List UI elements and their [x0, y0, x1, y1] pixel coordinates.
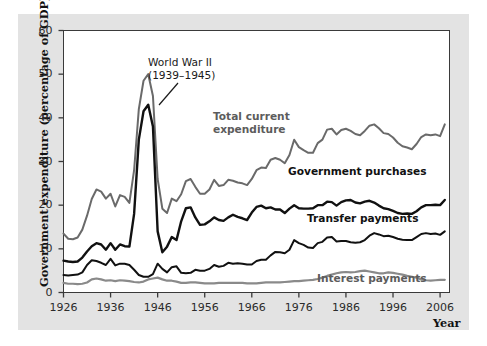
annotation-leader-line — [159, 83, 178, 105]
annotation-government-purchases: Government purchases — [288, 165, 426, 178]
y-tick-label: 60 — [27, 24, 53, 37]
y-tick-label: 40 — [27, 111, 53, 124]
annotation-line-2: (1939–1945) — [148, 69, 215, 82]
x-tick-label: 1976 — [274, 301, 324, 314]
annotation-line-1: World War II — [148, 56, 215, 69]
y-tick-label: 10 — [27, 242, 53, 255]
annotation-line-2: expenditure — [213, 123, 290, 136]
x-tick-label: 1956 — [180, 301, 230, 314]
annotation-line-1: Total current — [213, 110, 290, 123]
x-tick-label: 2006 — [415, 301, 465, 314]
x-tick-label: 1946 — [133, 301, 183, 314]
y-tick-label: 0 — [27, 286, 53, 299]
annotation-interest-payments: Interest payments — [317, 272, 427, 285]
x-axis-title: Year — [433, 316, 461, 330]
x-tick-label: 1926 — [39, 301, 89, 314]
x-tick-label: 1966 — [227, 301, 277, 314]
y-tick-label: 50 — [27, 67, 53, 80]
annotation-total-current-expenditure: Total currentexpenditure — [213, 110, 290, 135]
x-tick-label: 1986 — [321, 301, 371, 314]
annotation-line-1: Government purchases — [288, 165, 426, 178]
x-tick-label: 1936 — [86, 301, 136, 314]
data-series-group — [64, 74, 445, 284]
series-line-transfer-payments — [64, 231, 445, 276]
annotation-line-1: Interest payments — [317, 272, 427, 285]
leader-line-world-war-2 — [159, 83, 178, 105]
annotation-line-1: Transfer payments — [307, 212, 418, 225]
x-tick-label: 1996 — [368, 301, 418, 314]
annotation-world-war-2: World War II(1939–1945) — [148, 56, 215, 81]
chart-figure: Government expenditure (percentage of GD… — [0, 0, 487, 346]
annotation-transfer-payments: Transfer payments — [307, 212, 418, 225]
y-tick-label: 20 — [27, 198, 53, 211]
y-tick-label: 30 — [27, 155, 53, 168]
axis-ticks — [59, 31, 441, 298]
